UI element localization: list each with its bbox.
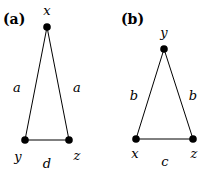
- edge-b-bottom-label: c: [161, 154, 169, 169]
- node-a-y: [21, 136, 29, 144]
- diagram-canvas: (a) x y z a a d (b) y x z b b c: [0, 0, 208, 178]
- edge-a-left-label: a: [13, 80, 21, 95]
- node-b-y: [160, 45, 168, 53]
- node-a-top-label: x: [43, 3, 51, 18]
- edge-a-left: [25, 27, 47, 140]
- node-b-top-label: y: [159, 25, 168, 40]
- edge-a-bottom-label: d: [43, 156, 51, 171]
- node-b-x: [132, 135, 140, 143]
- node-b-z: [189, 135, 197, 143]
- edge-a-right: [47, 27, 69, 140]
- edge-a-right-label: a: [73, 80, 81, 95]
- node-a-bottom-left-label: y: [13, 149, 22, 164]
- node-a-z: [65, 136, 73, 144]
- node-b-bottom-right-label: z: [190, 146, 198, 161]
- panel-a-label: (a): [3, 11, 25, 27]
- node-a-x: [43, 23, 51, 31]
- edge-b-left: [136, 49, 164, 139]
- panel-a: (a) x y z a a d: [3, 3, 81, 171]
- panel-b-label: (b): [121, 11, 144, 27]
- node-a-bottom-right-label: z: [73, 148, 81, 163]
- node-b-bottom-left-label: x: [131, 146, 139, 161]
- edge-b-right-label: b: [189, 88, 197, 103]
- edge-b-left-label: b: [130, 88, 138, 103]
- panel-b: (b) y x z b b c: [121, 11, 198, 169]
